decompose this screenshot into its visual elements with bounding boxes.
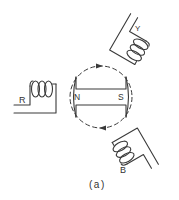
rotor: N S <box>70 64 132 131</box>
flux-arrow-top-icon <box>96 64 103 69</box>
coil-b-label: B <box>120 165 126 175</box>
coil-y-winding <box>110 14 159 66</box>
north-pole-label: N <box>74 92 80 102</box>
diagram-canvas: R Y B N S (a) <box>0 0 179 200</box>
coil-r: R <box>14 81 56 113</box>
magnet-top-edge <box>76 77 126 89</box>
figure-caption: (a) <box>89 179 106 190</box>
stator-rotor-diagram: R Y B N S (a) <box>0 0 179 200</box>
south-pole-label: S <box>118 92 124 102</box>
flux-arrow-bottom-icon <box>99 126 106 131</box>
coil-y-label: Y <box>135 24 141 33</box>
coil-b-winding <box>110 128 159 180</box>
coil-y <box>110 14 159 66</box>
coil-b <box>110 128 159 180</box>
magnet-bottom-edge <box>76 105 126 117</box>
coil-r-label: R <box>19 95 26 105</box>
